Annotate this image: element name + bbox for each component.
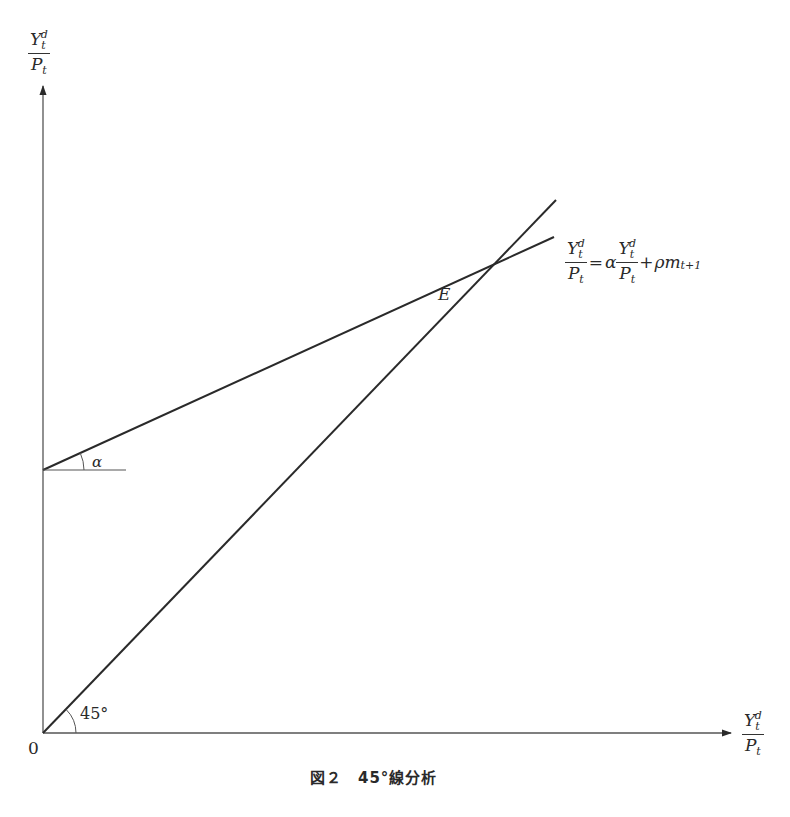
- y-label-den: P: [31, 54, 42, 74]
- eq-lhs-sup: d: [578, 237, 585, 250]
- eq-rhs-num: Y: [618, 238, 629, 258]
- eq-lhs-num: Y: [567, 238, 578, 258]
- eq-rhs-den: P: [619, 263, 630, 283]
- x-label-den-sub: t: [756, 745, 760, 758]
- figure-caption: 図２ 45°線分析: [310, 766, 437, 787]
- eq-equals: =: [589, 252, 603, 272]
- eq-tail: ρm: [654, 252, 680, 272]
- diagram-canvas: [0, 0, 790, 817]
- intersection-label: E: [438, 284, 450, 304]
- x-label-den: P: [745, 735, 756, 755]
- eq-lhs-fraction: Ytd Pt: [565, 238, 587, 285]
- eq-plus: +: [639, 252, 653, 272]
- eq-lhs-den: P: [568, 263, 579, 283]
- eq-rhs-sup: d: [629, 237, 636, 250]
- alpha-angle-arc: [80, 453, 84, 470]
- y-label-den-sub: t: [42, 64, 46, 77]
- demand-line: [43, 237, 554, 470]
- 45-angle-arc: [66, 710, 76, 733]
- angle-alpha-label: α: [92, 453, 102, 471]
- x-label-num: Y: [744, 710, 755, 730]
- x-label-sup: d: [755, 709, 762, 722]
- origin-label: 0: [28, 738, 39, 758]
- angle-45-label: 45°: [80, 704, 108, 723]
- x-axis-label: Ytd Pt: [742, 710, 764, 757]
- 45-degree-line: [43, 200, 556, 733]
- eq-lhs-den-sub: t: [579, 273, 583, 286]
- eq-rhs-den-sub: t: [631, 273, 635, 286]
- y-axis-label: Ytd Pt: [28, 29, 50, 76]
- eq-tail-sub: t+1: [681, 259, 702, 272]
- eq-coef-alpha: α: [605, 252, 616, 272]
- y-label-sup: d: [41, 28, 48, 41]
- y-label-num: Y: [30, 29, 41, 49]
- demand-equation: Ytd Pt = α Ytd Pt + ρmt+1: [565, 238, 701, 285]
- eq-rhs-fraction: Ytd Pt: [616, 238, 638, 285]
